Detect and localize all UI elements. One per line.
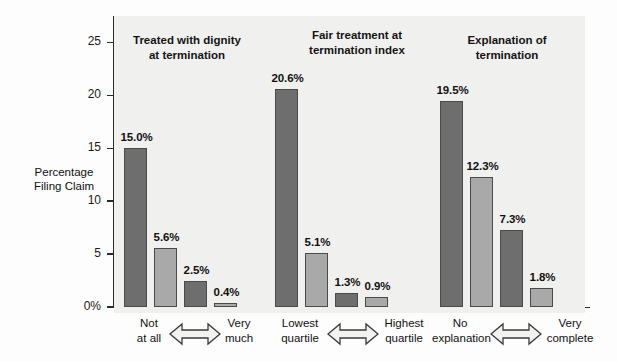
- bar-value-label: 20.6%: [271, 72, 303, 84]
- bar: [124, 148, 147, 307]
- y-tick-mark: [107, 148, 114, 150]
- bar: [214, 303, 237, 307]
- bar-value-label: 0.9%: [365, 280, 391, 292]
- y-axis-title-line2: Filing Claim: [34, 180, 94, 192]
- group-title: Explanation of termination: [437, 33, 577, 62]
- scale-row: No explanationVery complete: [432, 316, 600, 360]
- scale-high-label: Highest quartile: [374, 316, 434, 346]
- bar-value-label: 19.5%: [436, 84, 468, 96]
- double-arrow-icon: [327, 321, 379, 351]
- bar: [154, 248, 177, 307]
- y-axis-title: Percentage Filing Claim: [22, 165, 106, 193]
- scale-row: Not at allVery much: [121, 316, 269, 360]
- scale-low-label: Lowest quartile: [272, 316, 328, 346]
- y-tick-mark: [107, 95, 114, 97]
- bar-value-label: 1.8%: [530, 271, 556, 283]
- scale-high-label: Very complete: [540, 316, 600, 346]
- y-tick-mark: [107, 42, 114, 44]
- y-tick-label: 10: [88, 193, 101, 207]
- bar-value-label: 7.3%: [500, 213, 526, 225]
- bar-value-label: 0.4%: [214, 286, 240, 298]
- bar: [470, 177, 493, 307]
- bar: [440, 101, 463, 307]
- bar: [335, 293, 358, 307]
- bar: [275, 89, 298, 307]
- bar: [500, 230, 523, 307]
- bar: [365, 297, 388, 307]
- bar: [305, 253, 328, 307]
- bar-value-label: 5.6%: [154, 231, 180, 243]
- bar-value-label: 1.3%: [335, 276, 361, 288]
- group-title: Treated with dignity at termination: [117, 33, 257, 62]
- y-tick-mark: [107, 306, 114, 308]
- bar-value-label: 12.3%: [466, 160, 498, 172]
- scale-row: Lowest quartileHighest quartile: [272, 316, 434, 360]
- y-tick-mark: [107, 200, 114, 202]
- y-tick-label: 20: [88, 87, 101, 101]
- y-tick-label: 25: [88, 34, 101, 48]
- group-title: Fair treatment at termination index: [287, 28, 427, 57]
- bar: [184, 281, 207, 307]
- bar-value-label: 2.5%: [184, 264, 210, 276]
- y-tick-label: 0%: [84, 299, 101, 313]
- scale-low-label: No explanation: [432, 316, 488, 346]
- bar-value-label: 15.0%: [120, 131, 152, 143]
- y-tick-label: 15: [88, 140, 101, 154]
- y-tick-label: 5: [94, 246, 101, 260]
- y-tick-mark: [107, 253, 114, 255]
- double-arrow-icon: [490, 321, 542, 351]
- scale-high-label: Very much: [209, 316, 269, 346]
- y-axis-title-line1: Percentage: [35, 166, 94, 178]
- bar-value-label: 5.1%: [305, 236, 331, 248]
- bar-chart-figure: Percentage Filing Claim 0%510152025 Trea…: [0, 0, 617, 362]
- bar: [530, 288, 553, 307]
